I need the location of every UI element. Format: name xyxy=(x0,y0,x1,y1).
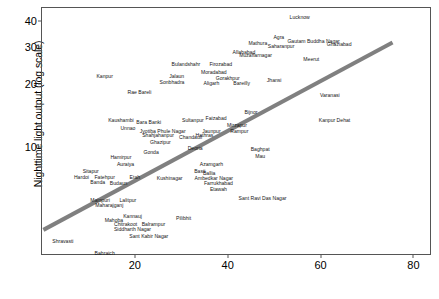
point-label: Sonbhadra xyxy=(160,80,185,85)
point-label: Baghpat xyxy=(251,148,270,153)
point-label: Aligarh xyxy=(204,81,220,86)
point-label: Rampur xyxy=(230,129,248,134)
point-label: Shravasti xyxy=(52,239,73,244)
x-tick-label: 20 xyxy=(129,260,141,271)
point-label: Kanpur Dehat xyxy=(319,119,350,124)
point-label: Ghazipur xyxy=(150,141,171,146)
x-tick-mark xyxy=(227,254,228,258)
point-label: Meerut xyxy=(303,57,319,62)
point-label: Deoria xyxy=(188,147,203,152)
point-label: Azamgarh xyxy=(200,162,223,167)
point-label: Gonda xyxy=(143,151,158,156)
point-label: Sant Kabir Nagar xyxy=(129,234,168,239)
point-label: Pilibhit xyxy=(176,217,191,222)
point-label: Sant Ravi Das Nagar xyxy=(239,197,287,202)
point-label: Chandauli xyxy=(179,135,202,140)
point-label: Bareilly xyxy=(233,81,250,86)
point-label: Kaushambi xyxy=(108,119,133,124)
plot-panel: 10203040 20406080 LucknowAgraGautam Budd… xyxy=(41,7,431,255)
point-label: Hardoi xyxy=(74,175,89,180)
point-label: Sultanpur xyxy=(182,119,204,124)
point-label: Bahraich xyxy=(95,252,115,257)
x-tick-mark xyxy=(413,254,414,258)
y-tick-mark xyxy=(38,83,42,84)
point-label: Muzaffarnagar xyxy=(239,54,272,59)
point-label: Kushinagar xyxy=(157,176,183,181)
x-tick-mark xyxy=(320,254,321,258)
point-label: Bulandshahr xyxy=(172,63,201,68)
y-tick-mark xyxy=(38,146,42,147)
point-label: Budaun xyxy=(110,182,128,187)
point-label: Agra xyxy=(273,36,284,41)
point-label: Kanpur xyxy=(96,75,112,80)
point-label: Varanasi xyxy=(320,93,340,98)
y-tick-label: 20 xyxy=(25,78,37,89)
x-tick-label: 40 xyxy=(222,260,234,271)
point-label: Hamirpur xyxy=(110,156,131,161)
y-tick-mark xyxy=(38,20,42,21)
point-label: Bijnor xyxy=(244,110,257,115)
point-label: Lucknow xyxy=(290,16,310,21)
point-label: Shahjahanpur xyxy=(142,134,174,139)
point-label: Maharajganj xyxy=(95,203,123,208)
point-label: Faizabad xyxy=(206,117,227,122)
point-label: Mathura xyxy=(249,41,268,46)
x-tick-mark xyxy=(134,254,135,258)
point-label: Auraiya xyxy=(117,162,134,167)
point-label: Saharanpur xyxy=(268,44,295,49)
point-label: Mau xyxy=(255,155,265,160)
point-label: Etah xyxy=(130,175,140,180)
point-label: Kannauj xyxy=(123,215,142,220)
x-tick-label: 80 xyxy=(407,260,419,271)
y-tick-mark xyxy=(38,46,42,47)
point-label: Etawah xyxy=(210,188,227,193)
point-label: Ghaziabad xyxy=(327,43,352,48)
point-label: Firozabad xyxy=(209,63,232,68)
point-label: Jhansi xyxy=(267,79,282,84)
x-tick-label: 60 xyxy=(314,260,326,271)
point-label: Siddharth Nagar xyxy=(114,227,151,232)
scatter-plot-figure: Nighttime light output (log scale) 10203… xyxy=(0,0,439,299)
y-tick-label: 30 xyxy=(25,41,37,52)
y-tick-label: 40 xyxy=(25,15,37,26)
point-label: Bara Banki xyxy=(136,120,161,125)
point-label: Rae Bareli xyxy=(128,91,152,96)
point-label: Unnao xyxy=(120,126,135,131)
point-label: Banda xyxy=(90,180,105,185)
y-tick-label: 10 xyxy=(25,141,37,152)
